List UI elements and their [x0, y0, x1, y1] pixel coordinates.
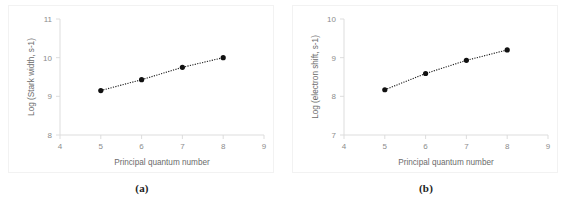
x-tick-label: 6 — [139, 142, 144, 151]
x-tick-label: 7 — [180, 142, 185, 151]
y-tick-label: 7 — [332, 131, 337, 140]
panel-caption: (b) — [284, 182, 568, 194]
plot-area: 78910456789Principal quantum numberLog (… — [292, 5, 558, 173]
x-tick-label: 4 — [58, 142, 63, 151]
plot-area: 891011456789Principal quantum numberLog … — [8, 5, 274, 173]
x-tick-label: 8 — [505, 142, 510, 151]
series-trend-line — [385, 50, 507, 90]
data-point-marker — [423, 71, 428, 76]
x-tick-label: 4 — [342, 142, 347, 151]
y-tick-label: 8 — [332, 92, 337, 101]
figure-two-panel-charts: 891011456789Principal quantum numberLog … — [0, 0, 569, 215]
y-tick-label: 11 — [44, 15, 53, 24]
data-point-marker — [180, 65, 185, 70]
data-point-marker — [98, 88, 103, 93]
x-tick-label: 5 — [383, 142, 388, 151]
x-tick-label: 9 — [262, 142, 267, 151]
y-axis-title: Log (electron shift, s-1) — [311, 35, 320, 119]
x-axis-title: Principal quantum number — [398, 158, 494, 167]
x-axis-title: Principal quantum number — [114, 158, 210, 167]
panel-caption: (a) — [0, 182, 284, 194]
x-tick-label: 6 — [423, 142, 428, 151]
panel-a: 891011456789Principal quantum numberLog … — [0, 0, 284, 215]
y-tick-label: 9 — [332, 54, 337, 63]
y-tick-label: 9 — [48, 92, 53, 101]
data-point-marker — [382, 87, 387, 92]
series-trend-line — [101, 58, 223, 91]
x-tick-label: 5 — [99, 142, 104, 151]
data-point-marker — [221, 55, 226, 60]
panel-b: 78910456789Principal quantum numberLog (… — [284, 0, 568, 215]
y-tick-label: 8 — [48, 131, 53, 140]
x-tick-label: 7 — [464, 142, 469, 151]
x-tick-label: 9 — [546, 142, 551, 151]
data-point-marker — [505, 47, 510, 52]
y-tick-label: 10 — [43, 54, 52, 63]
y-axis-title: Log (Stark width, s-1) — [27, 38, 36, 116]
x-tick-label: 8 — [221, 142, 226, 151]
data-point-marker — [464, 58, 469, 63]
y-tick-label: 10 — [327, 15, 336, 24]
data-point-marker — [139, 77, 144, 82]
